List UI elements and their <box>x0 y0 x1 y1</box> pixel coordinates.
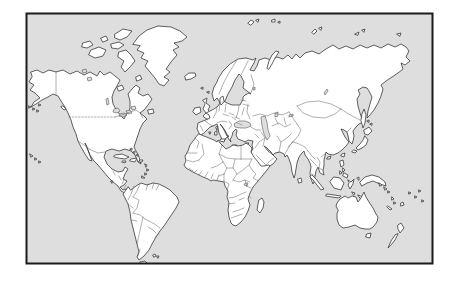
world-outline-map <box>0 0 452 284</box>
screenshot-canvas <box>0 0 452 284</box>
sri-lanka <box>298 178 302 183</box>
tasmania <box>366 233 371 238</box>
